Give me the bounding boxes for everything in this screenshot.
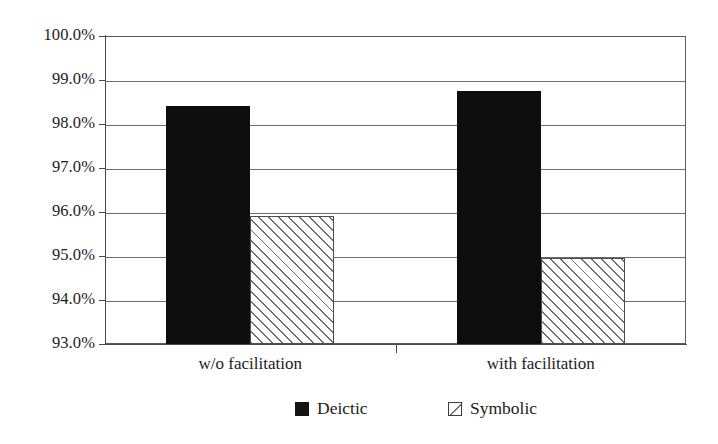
bar-symbolic-0 [250,216,334,344]
bar-chart: 93.0%94.0%95.0%96.0%97.0%98.0%99.0%100.0… [0,0,718,444]
y-axis-tick-label: 100.0% [44,25,95,45]
y-axis-tick-label: 94.0% [52,289,95,309]
x-axis-tick [396,344,397,353]
legend-label: Deictic [317,400,368,418]
y-axis-tick-label: 98.0% [52,113,95,133]
bar-deictic-0 [166,106,250,344]
y-axis-tick [99,300,106,301]
y-axis-tick [99,36,106,37]
gridline [106,81,685,82]
chart-legend: DeicticSymbolic [0,400,718,424]
x-axis-category-label: w/o facilitation [105,354,396,374]
y-axis-tick [99,80,106,81]
bar-deictic-1 [457,91,541,344]
y-axis-tick [99,212,106,213]
legend-label: Symbolic [470,400,537,418]
legend-swatch-solid-icon [295,402,309,416]
legend-item-deictic: Deictic [295,400,368,418]
y-axis-tick [99,168,106,169]
y-axis-tick [99,124,106,125]
y-axis-tick-label: 93.0% [52,333,95,353]
bar-symbolic-1 [541,258,625,344]
y-axis-tick-label: 97.0% [52,157,95,177]
x-axis-category-label: with facilitation [396,354,687,374]
legend-item-symbolic: Symbolic [448,400,537,418]
legend-swatch-hatched-icon [448,402,462,416]
y-axis-spine [105,35,106,345]
y-axis-tick-label: 99.0% [52,69,95,89]
y-axis-tick-label: 95.0% [52,245,95,265]
y-axis-tick [99,256,106,257]
y-axis-tick-label: 96.0% [52,201,95,221]
